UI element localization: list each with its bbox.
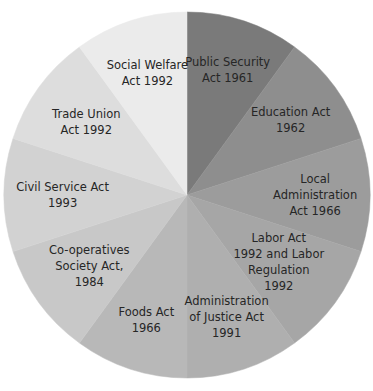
pie-chart: Public SecurityAct 1961Education Act1962… [0,0,373,391]
